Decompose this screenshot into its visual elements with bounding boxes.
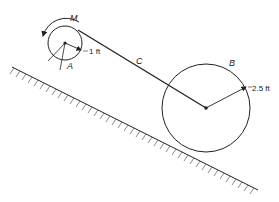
large-radius-arrow: [206, 87, 246, 108]
small-radius-arrow: [65, 43, 81, 50]
small-wheel-label: A: [66, 61, 73, 71]
large-radius-label: 2.5 ft: [252, 84, 271, 93]
ground-hatching: [10, 68, 254, 194]
inclined-plane: [10, 67, 258, 194]
cable-label: C: [136, 56, 143, 66]
cable-c: [78, 30, 206, 108]
moment-label: M: [70, 13, 78, 23]
small-radius-label: 1 ft: [89, 47, 101, 56]
incline-wheels-diagram: 1 ft A M C 2.5 ft B: [0, 0, 279, 202]
large-wheel-label: B: [229, 58, 235, 68]
large-wheel-b: [162, 64, 252, 152]
